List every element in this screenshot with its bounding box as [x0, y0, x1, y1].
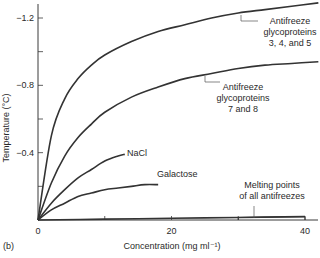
x-tick-label: 20	[166, 226, 176, 236]
svg-text:of all antifreezes: of all antifreezes	[239, 191, 305, 201]
x-tick-label: 0	[35, 226, 40, 236]
svg-text:glycoproteins: glycoproteins	[216, 93, 270, 103]
galactose-curve	[38, 185, 158, 220]
y-tick-label: −0.4	[16, 148, 34, 158]
nacl-label: NaCl	[127, 148, 147, 158]
chart: 02040−0.4−0.8−1.2 Antifreezeglycoprotein…	[0, 0, 320, 258]
afgp-7-8-leader	[205, 76, 220, 82]
svg-text:Antifreeze: Antifreeze	[223, 82, 264, 92]
x-axis-title: Concentration (mg ml⁻¹)	[123, 241, 220, 251]
panel-label: (b)	[3, 241, 14, 251]
svg-text:7 and 8: 7 and 8	[228, 104, 258, 114]
melting-point-bracket	[238, 217, 305, 220]
galactose-label: Galactose	[157, 169, 198, 179]
x-tick-label: 40	[300, 226, 310, 236]
annotations: Antifreezeglycoproteins3, 4, and 5Antifr…	[127, 15, 317, 218]
svg-text:3, 4, and 5: 3, 4, and 5	[269, 38, 312, 48]
afgp-7-8-label: Antifreezeglycoproteins7 and 8	[216, 82, 270, 114]
y-tick-label: −1.2	[16, 13, 34, 23]
y-tick-label: −0.8	[16, 80, 34, 90]
melting-label: Melting pointsof all antifreezes	[239, 180, 305, 201]
svg-text:Galactose: Galactose	[157, 169, 198, 179]
svg-text:Melting points: Melting points	[244, 180, 300, 190]
afgp-3-4-5-label: Antifreezeglycoproteins3, 4, and 5	[263, 16, 317, 48]
afgp-3-4-5-leader	[241, 15, 258, 21]
svg-text:NaCl: NaCl	[127, 148, 147, 158]
y-axis-title: Temperature (°C)	[1, 93, 11, 162]
svg-text:Antifreeze: Antifreeze	[270, 16, 311, 26]
svg-text:glycoproteins: glycoproteins	[263, 27, 317, 37]
